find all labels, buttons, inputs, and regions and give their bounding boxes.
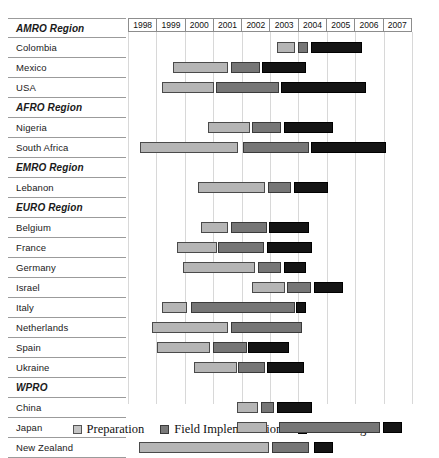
row-label-china: China — [8, 398, 126, 418]
row-label-south-africa: South Africa — [8, 138, 126, 158]
row-plot-area — [128, 258, 420, 278]
gantt-bar-proc — [314, 282, 344, 293]
year-cell-2007: 2007 — [384, 19, 411, 31]
legend-item-prep: Preparation — [73, 422, 145, 437]
gantt-bar-field — [261, 402, 274, 413]
gantt-row: France — [8, 238, 420, 258]
gantt-bar-field — [258, 262, 281, 273]
gantt-bar-field — [252, 122, 280, 133]
gantt-bar-prep — [201, 222, 228, 233]
row-plot-area — [128, 198, 420, 218]
gantt-row: USA — [8, 78, 420, 98]
gantt-bar-proc — [248, 342, 289, 353]
gantt-bar-prep — [237, 422, 267, 433]
year-cell-2002: 2002 — [242, 19, 270, 31]
gantt-row: EMRO Region — [8, 158, 420, 178]
row-plot-area — [128, 58, 420, 78]
gantt-bar-prep — [139, 442, 270, 453]
gantt-bar-proc — [383, 422, 401, 433]
row-plot-area — [128, 38, 420, 58]
gantt-bar-field — [268, 182, 291, 193]
gantt-bar-proc — [311, 142, 386, 153]
gantt-row: Italy — [8, 298, 420, 318]
gantt-bar-proc — [267, 362, 304, 373]
row-plot-area — [128, 118, 420, 138]
gantt-bar-prep — [177, 242, 217, 253]
legend-label: Preparation — [87, 422, 145, 437]
row-label-afro-region: AFRO Region — [8, 98, 126, 118]
gantt-bar-proc — [294, 182, 328, 193]
gantt-bar-prep — [140, 142, 238, 153]
gantt-bar-prep — [208, 122, 249, 133]
row-label-france: France — [8, 238, 126, 258]
year-cell-2006: 2006 — [355, 19, 383, 31]
gantt-bar-field — [218, 242, 263, 253]
gantt-row: Belgium — [8, 218, 420, 238]
row-label-germany: Germany — [8, 258, 126, 278]
year-cell-1998: 1998 — [129, 19, 157, 31]
row-label-new-zealand: New Zealand — [8, 438, 126, 458]
row-plot-area — [128, 298, 420, 318]
gantt-row: Ukraine — [8, 358, 420, 378]
row-label-euro-region: EURO Region — [8, 198, 126, 218]
gantt-row: Nigeria — [8, 118, 420, 138]
gantt-row: Colombia — [8, 38, 420, 58]
gantt-row: South Africa — [8, 138, 420, 158]
row-label-israel: Israel — [8, 278, 126, 298]
row-label-italy: Italy — [8, 298, 126, 318]
gantt-row: Mexico — [8, 58, 420, 78]
gantt-bar-proc — [277, 402, 313, 413]
row-plot-area — [128, 218, 420, 238]
gantt-bar-proc — [314, 442, 334, 453]
row-plot-area — [128, 138, 420, 158]
gantt-bar-field — [279, 422, 380, 433]
row-label-lebanon: Lebanon — [8, 178, 126, 198]
gantt-bar-prep — [162, 302, 188, 313]
row-plot-area — [128, 78, 420, 98]
gantt-bar-proc — [281, 82, 366, 93]
gantt-row: Lebanon — [8, 178, 420, 198]
row-plot-area — [128, 178, 420, 198]
gantt-bar-prep — [152, 322, 229, 333]
gantt-bar-prep — [237, 402, 258, 413]
gantt-bar-prep — [157, 342, 210, 353]
gantt-row: Spain — [8, 338, 420, 358]
gantt-bar-prep — [277, 42, 295, 53]
row-plot-area — [128, 378, 420, 398]
gantt-bar-proc — [262, 62, 306, 73]
gantt-bar-prep — [173, 62, 228, 73]
gantt-row: Israel — [8, 278, 420, 298]
gantt-bar-field — [272, 442, 309, 453]
year-cell-2001: 2001 — [214, 19, 242, 31]
gantt-bar-proc — [311, 42, 362, 53]
row-label-emro-region: EMRO Region — [8, 158, 126, 178]
year-cell-1999: 1999 — [157, 19, 185, 31]
gantt-bar-field — [231, 62, 259, 73]
row-plot-area — [128, 358, 420, 378]
row-label-wpro: WPRO — [8, 378, 126, 398]
gantt-row: Germany — [8, 258, 420, 278]
row-label-amro-region: AMRO Region — [8, 18, 126, 38]
gantt-bar-field — [231, 222, 267, 233]
year-cell-2003: 2003 — [270, 19, 298, 31]
gantt-bar-field — [298, 42, 308, 53]
row-label-mexico: Mexico — [8, 58, 126, 78]
legend-swatch-field-icon — [160, 425, 169, 434]
row-label-spain: Spain — [8, 338, 126, 358]
gantt-bar-prep — [183, 262, 255, 273]
gantt-bar-prep — [194, 362, 237, 373]
row-label-colombia: Colombia — [8, 38, 126, 58]
row-label-ukraine: Ukraine — [8, 358, 126, 378]
gantt-bar-field — [238, 362, 265, 373]
legend-swatch-prep-icon — [73, 425, 82, 434]
gantt-bar-field — [213, 342, 247, 353]
year-cell-2000: 2000 — [186, 19, 214, 31]
gantt-row: New Zealand — [8, 438, 420, 458]
gantt-row: WPRO — [8, 378, 420, 398]
row-plot-area — [128, 438, 420, 458]
gantt-table: AMRO RegionColombiaMexicoUSAAFRO RegionN… — [8, 18, 420, 458]
gantt-row: China — [8, 398, 420, 418]
row-plot-area — [128, 158, 420, 178]
gantt-row: AFRO Region — [8, 98, 420, 118]
gantt-bar-proc — [284, 262, 307, 273]
